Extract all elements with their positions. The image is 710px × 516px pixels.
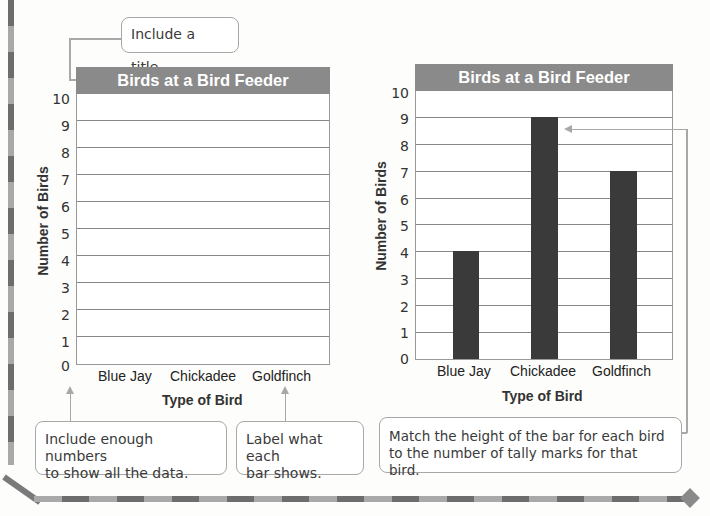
chart-title: Birds at a Bird Feeder (76, 67, 330, 94)
y-axis-title: Number of Birds (373, 156, 389, 276)
y-tick: 1 (46, 334, 70, 350)
x-axis-title: Type of Bird (502, 388, 583, 404)
chart-title: Birds at a Bird Feeder (415, 64, 673, 91)
callout-text: Match the height of the bar for each bir… (389, 428, 672, 445)
x-tick-label: Goldfinch (592, 363, 651, 379)
y-tick: 2 (46, 307, 70, 323)
callout-match-height: Match the height of the bar for each bir… (379, 417, 682, 473)
y-tick: 0 (46, 358, 70, 374)
y-tick: 8 (385, 138, 409, 154)
connector-line (285, 393, 287, 421)
callout-include-numbers: Include enough numbers to show all the d… (35, 421, 227, 475)
y-axis-title: Number of Birds (35, 161, 51, 281)
dashed-border-bottom (34, 496, 684, 502)
y-tick: 9 (46, 118, 70, 134)
connector-line (69, 38, 71, 80)
x-tick-label: Goldfinch (252, 368, 311, 384)
x-tick-label: Blue Jay (98, 368, 152, 384)
callout-text: to the number of tally marks for that bi… (389, 445, 672, 479)
x-tick-label: Blue Jay (437, 363, 491, 379)
x-axis-title: Type of Bird (162, 392, 243, 408)
plot-area (76, 94, 330, 365)
y-tick: 2 (385, 299, 409, 315)
callout-text: bar shows. (246, 465, 354, 482)
callout-text: Include enough numbers (45, 431, 217, 465)
y-tick: 10 (385, 85, 409, 101)
x-tick-label: Chickadee (510, 363, 576, 379)
arrow-left-icon (564, 125, 572, 133)
y-tick: 8 (46, 145, 70, 161)
dashed-border-left (8, 0, 14, 465)
connector-line (686, 129, 688, 433)
y-tick: 9 (385, 111, 409, 127)
diamond-end-icon (680, 488, 700, 508)
bar-chickadee (531, 117, 558, 359)
bar-blue-jay (453, 251, 479, 359)
connector-line (69, 38, 122, 40)
y-tick: 1 (385, 325, 409, 341)
y-tick: 3 (46, 280, 70, 296)
bar-goldfinch (610, 171, 637, 359)
connector-line (572, 129, 687, 131)
callout-text: to show all the data. (45, 465, 217, 482)
x-tick-label: Chickadee (170, 368, 236, 384)
plot-area (415, 91, 673, 360)
connector-line (70, 393, 72, 421)
callout-label-bars: Label what each bar shows. (236, 421, 364, 475)
y-tick: 0 (385, 351, 409, 367)
y-tick: 10 (46, 91, 70, 107)
callout-include-title: Include a title. (121, 17, 239, 53)
callout-text: Label what each (246, 431, 354, 465)
